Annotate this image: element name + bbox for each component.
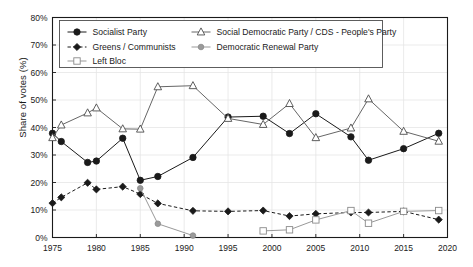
y-tick-label: 80% — [30, 13, 47, 23]
data-point-marker — [365, 220, 371, 226]
y-tick-label: 60% — [30, 68, 47, 78]
data-point-marker — [120, 135, 126, 141]
data-point-marker — [58, 194, 65, 201]
data-point-marker — [286, 227, 292, 233]
data-point-marker — [400, 145, 406, 151]
y-axis-ticks: 0%10%20%30%40%50%60%70%80% — [30, 13, 47, 243]
data-point-marker — [84, 159, 90, 165]
data-point-marker — [190, 154, 196, 160]
data-point-marker — [198, 44, 204, 50]
data-point-marker — [119, 183, 126, 190]
plot-area: 0%10%20%30%40%50%60%70%80% 1975198019851… — [0, 0, 473, 267]
x-tick-label: 2020 — [438, 243, 457, 253]
legend-label: Democratic Renewal Party — [217, 42, 319, 52]
data-point-marker — [84, 179, 91, 186]
series-line — [140, 188, 193, 235]
data-point-marker — [58, 138, 64, 144]
x-tick-label: 1985 — [131, 243, 150, 253]
x-tick-label: 2000 — [262, 243, 281, 253]
data-point-marker — [137, 177, 143, 183]
series-democratic-renewal-party — [137, 185, 195, 238]
data-point-marker — [155, 173, 161, 179]
legend-label: Social Democratic Party / CDS - People's… — [217, 27, 397, 37]
data-point-marker — [313, 111, 319, 117]
x-tick-label: 2005 — [306, 243, 325, 253]
legend-label: Greens / Communists — [93, 42, 176, 52]
legend-item[interactable]: Left Bloc — [68, 56, 127, 66]
x-tick-label: 2015 — [394, 243, 413, 253]
y-tick-label: 40% — [30, 123, 47, 133]
data-point-marker — [74, 29, 80, 35]
x-axis-ticks: 1975198019851990199520002005201020152020 — [43, 243, 457, 253]
y-tick-label: 0% — [35, 233, 48, 243]
legend-label: Socialist Party — [93, 27, 148, 37]
data-point-marker — [286, 130, 292, 136]
data-point-marker — [137, 185, 143, 191]
data-point-marker — [93, 104, 101, 111]
data-point-marker — [436, 207, 442, 213]
x-tick-label: 2010 — [350, 243, 369, 253]
series-line — [53, 114, 439, 181]
data-point-marker — [286, 212, 293, 219]
data-point-marker — [286, 99, 294, 106]
series-line — [53, 86, 439, 142]
legend-item[interactable]: Social Democratic Party / CDS - People's… — [192, 27, 397, 37]
data-series-layer — [49, 82, 443, 239]
data-point-marker — [260, 207, 267, 214]
data-point-marker — [189, 207, 196, 214]
data-point-marker — [155, 221, 161, 227]
data-point-marker — [93, 158, 99, 164]
data-point-marker — [137, 125, 145, 132]
data-point-marker — [436, 130, 442, 136]
chart-legend: Socialist PartySocial Democratic Party /… — [60, 21, 397, 68]
legend-label: Left Bloc — [93, 56, 127, 66]
data-point-marker — [189, 82, 197, 89]
series-left-bloc — [260, 207, 442, 234]
data-point-marker — [49, 200, 56, 207]
data-point-marker — [119, 125, 127, 132]
y-tick-label: 70% — [30, 40, 47, 50]
series-line — [53, 183, 439, 220]
data-point-marker — [224, 208, 231, 215]
series-greens-communists — [49, 179, 442, 223]
data-point-marker — [313, 217, 319, 223]
data-point-marker — [58, 121, 66, 128]
data-point-marker — [260, 228, 266, 234]
data-point-marker — [84, 109, 92, 116]
election-share-line-chart: Share of votes (%) 0%10%20%30%40%50%60%7… — [0, 0, 473, 267]
data-point-marker — [435, 216, 442, 223]
data-point-marker — [154, 200, 161, 207]
data-point-marker — [400, 208, 406, 214]
data-point-marker — [348, 207, 354, 213]
y-tick-label: 30% — [30, 150, 47, 160]
series-social-democratic-party-cds-people-s-party — [49, 82, 443, 145]
x-tick-label: 1990 — [175, 243, 194, 253]
x-tick-label: 1995 — [219, 243, 238, 253]
x-tick-label: 1975 — [43, 243, 62, 253]
data-point-marker — [365, 95, 373, 102]
data-point-marker — [365, 157, 371, 163]
data-point-marker — [260, 113, 266, 119]
data-point-marker — [348, 134, 354, 140]
x-tick-label: 1980 — [87, 243, 106, 253]
data-point-marker — [74, 58, 80, 64]
y-tick-label: 20% — [30, 178, 47, 188]
data-point-marker — [190, 233, 196, 239]
data-point-marker — [93, 186, 100, 193]
y-tick-label: 50% — [30, 95, 47, 105]
y-tick-label: 10% — [30, 205, 47, 215]
